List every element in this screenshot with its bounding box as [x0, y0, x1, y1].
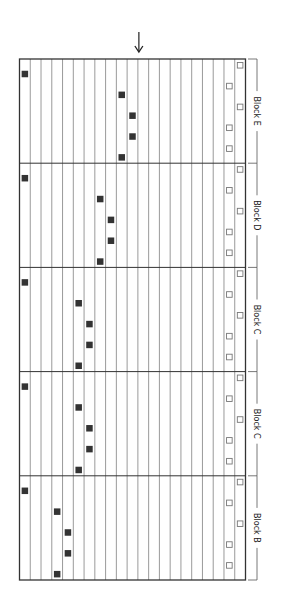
block-bracket: Block E [248, 59, 261, 163]
open-marker [237, 104, 243, 110]
filled-marker [86, 342, 93, 349]
block-4 [20, 476, 246, 578]
open-marker [237, 271, 243, 277]
filled-marker [86, 446, 93, 453]
block-label: Block C [252, 409, 261, 439]
open-marker [227, 146, 233, 152]
block-label: Block D [252, 200, 261, 230]
filled-marker [65, 529, 72, 536]
open-marker [227, 438, 233, 444]
filled-marker [108, 217, 115, 224]
filled-marker [118, 154, 125, 161]
open-marker [227, 396, 233, 402]
filled-marker [108, 237, 115, 244]
block-bracket: Block D [248, 163, 261, 267]
open-marker [237, 417, 243, 423]
filled-marker [75, 404, 82, 411]
block-label: Block B [252, 513, 261, 543]
open-marker [227, 229, 233, 235]
open-marker [227, 250, 233, 256]
open-marker [227, 292, 233, 298]
filled-marker [86, 321, 93, 328]
block-brackets: Block EBlock DBlock CBlock CBlock B [248, 59, 261, 580]
filled-marker [75, 363, 82, 370]
block-bracket: Block C [248, 372, 261, 476]
filled-marker [129, 133, 136, 140]
open-marker [227, 125, 233, 131]
open-marker [227, 333, 233, 339]
block-1 [20, 163, 246, 265]
filled-marker [65, 550, 72, 557]
filled-marker [118, 92, 125, 99]
open-marker [237, 208, 243, 214]
blocks [20, 62, 246, 577]
filled-marker [54, 508, 61, 514]
block-bracket: Block C [248, 267, 261, 371]
open-marker [237, 479, 243, 485]
block-label: Block C [252, 305, 261, 335]
open-marker [237, 375, 243, 381]
open-marker [227, 354, 233, 360]
filled-marker [86, 425, 93, 432]
open-marker [237, 313, 243, 319]
filled-marker [22, 383, 29, 390]
filled-marker [54, 571, 61, 578]
block-diagram: Block EBlock DBlock CBlock CBlock B [0, 0, 282, 607]
open-marker [227, 83, 233, 89]
block-bracket: Block B [248, 476, 261, 580]
block-3 [20, 372, 246, 474]
filled-marker [97, 258, 104, 265]
block-2 [20, 267, 246, 369]
down-arrow-icon [135, 32, 143, 52]
filled-marker [129, 112, 136, 119]
open-marker [227, 500, 233, 506]
filled-marker [75, 300, 82, 307]
open-marker [227, 563, 233, 569]
block-label: Block E [252, 96, 261, 125]
filled-marker [22, 279, 29, 286]
filled-marker [22, 175, 29, 182]
filled-marker [75, 467, 82, 474]
open-marker [227, 542, 233, 548]
filled-marker [97, 196, 104, 203]
open-marker [227, 187, 233, 193]
open-marker [237, 521, 243, 527]
filled-marker [22, 488, 29, 495]
block-0 [22, 62, 243, 160]
open-marker [237, 62, 243, 68]
open-marker [227, 458, 233, 464]
filled-marker [22, 71, 29, 78]
open-marker [237, 167, 243, 173]
